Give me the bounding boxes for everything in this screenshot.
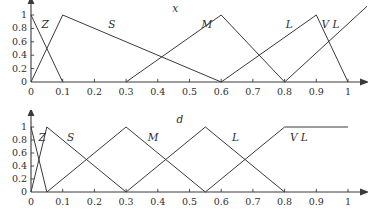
set-label-L: L [232,132,239,143]
set-label-M: M [148,132,159,143]
y-tick-label: 0.2 [12,64,27,74]
x-axis-arrow-icon [360,79,368,86]
x-tick-label: 0.6 [214,197,229,207]
x-tick-label: 1 [345,87,351,97]
set-label-S: S [67,132,74,143]
x-tick-label: 0 [28,197,34,207]
membership-curve-VL [205,127,348,192]
x-tick-label: 0.8 [277,197,292,207]
x-tick-label: 0.8 [277,87,292,97]
chart-panel-d: 00.10.20.30.40.50.60.70.80.9100.20.40.60… [0,110,368,219]
x-tick-label: 0.9 [309,197,324,207]
x-tick-label: 0.4 [150,87,165,97]
set-label-VL: V L [290,132,308,143]
y-tick-label: 0.6 [12,37,27,47]
x-tick-label: 0.6 [214,87,229,97]
y-tick-label: 0 [21,77,27,87]
x-tick-label: 0.2 [87,87,102,97]
x-tick-label: 0.1 [55,197,70,207]
y-tick-label: 0 [21,187,27,197]
chart-title: d [177,114,184,125]
x-tick-label: 0.2 [87,197,102,207]
x-tick-label: 1 [345,197,351,207]
set-label-L: L [286,19,293,30]
x-tick-label: 0.7 [245,197,260,207]
y-axis-arrow-icon [28,0,35,4]
set-label-Z: Z [38,132,45,143]
x-tick-label: 0.1 [55,87,70,97]
x-tick-label: 0.9 [309,87,324,97]
chart-title: x [172,3,178,14]
x-tick-label: 0.5 [182,87,197,97]
y-tick-label: 0.4 [12,161,27,171]
x-axis-arrow-icon [360,189,368,196]
y-tick-label: 0.4 [12,50,27,60]
x-tick-label: 0.4 [150,197,165,207]
set-label-M: M [202,19,213,30]
x-tick-label: 0.3 [119,197,134,207]
set-label-VL: V L [322,19,340,30]
y-tick-label: 1 [21,122,27,132]
set-label-S: S [108,18,115,29]
y-tick-label: 0.6 [12,148,27,158]
y-tick-label: 0.2 [12,174,27,184]
fuzzy-membership-figure: 00.10.20.30.40.50.60.70.80.9100.20.40.60… [0,0,368,219]
y-axis-arrow-icon [28,110,35,116]
y-tick-label: 1 [21,10,27,20]
chart-panel-x: 00.10.20.30.40.50.60.70.80.9100.20.40.60… [0,0,368,108]
membership-curve-S [31,15,221,82]
x-tick-label: 0.3 [119,87,134,97]
set-label-Z: Z [42,19,49,30]
y-tick-label: 0.8 [12,24,27,34]
y-tick-label: 0.8 [12,135,27,145]
x-tick-label: 0 [28,87,34,97]
x-tick-label: 0.7 [245,87,260,97]
x-tick-label: 0.5 [182,197,197,207]
